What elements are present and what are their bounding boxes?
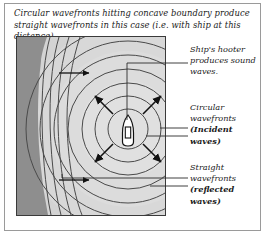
label-reflected-waves-text: Straight wavefronts [190, 162, 236, 183]
label-reflected-waves-emphasis: (reflected waves) [190, 184, 234, 205]
label-ship-hooter-text: Ship's hooter produces sound waves. [190, 44, 256, 76]
wave-reflection-diagram [17, 37, 165, 215]
label-incident-waves-text: Circular wavefronts [190, 102, 236, 123]
label-incident-waves-emphasis: (Incident waves) [190, 124, 232, 145]
label-reflected-waves: Straight wavefronts (reflected waves) [190, 162, 260, 207]
figure-root: Circular wavefronts hitting concave boun… [0, 0, 265, 235]
label-ship-hooter: Ship's hooter produces sound waves. [190, 44, 260, 78]
label-incident-waves: Circular wavefronts (Incident waves) [190, 102, 260, 147]
diagram-panel [16, 36, 166, 216]
